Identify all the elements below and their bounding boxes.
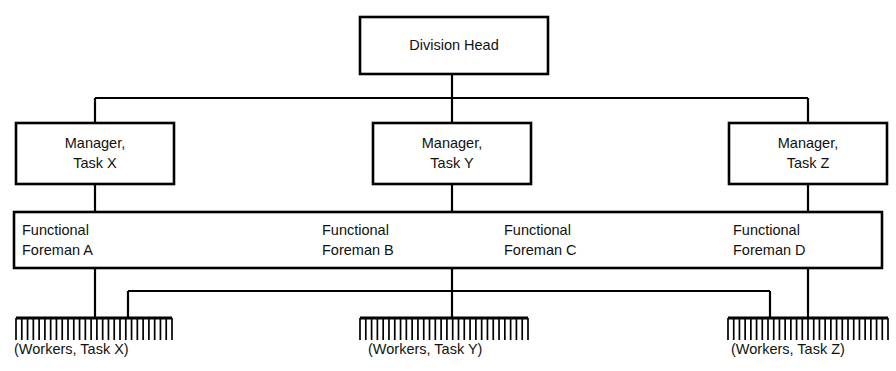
lower-connector-lines xyxy=(95,268,808,318)
manager-task-z-box xyxy=(729,123,887,184)
workers-task-x-comb xyxy=(16,318,172,340)
workers-task-z-caption: (Workers, Task Z) xyxy=(731,341,845,357)
manager-task-y-box xyxy=(373,123,531,184)
functional-foreman-d-line1: Functional xyxy=(733,222,800,238)
manager-task-x-label-line1: Manager, xyxy=(65,135,125,151)
functional-foreman-b-line2: Foreman B xyxy=(322,242,394,258)
functional-foreman-c-line1: Functional xyxy=(504,222,571,238)
functional-foreman-c-line2: Foreman C xyxy=(504,242,577,258)
workers-task-y-caption: (Workers, Task Y) xyxy=(368,341,482,357)
manager-task-x-node[interactable]: Manager, Task X xyxy=(16,123,174,184)
manager-task-y-label-line1: Manager, xyxy=(422,135,482,151)
org-chart-diagram: Division Head Manager, Task X Manager, T… xyxy=(0,0,896,371)
worker-comb-groups xyxy=(16,318,888,340)
functional-foreman-b-line1: Functional xyxy=(322,222,389,238)
manager-task-y-label-line2: Task Y xyxy=(430,155,474,171)
division-head-node[interactable]: Division Head xyxy=(360,17,548,74)
foreman-band-box xyxy=(14,212,882,268)
org-chart-canvas: Division Head Manager, Task X Manager, T… xyxy=(0,0,896,371)
manager-task-z-node[interactable]: Manager, Task Z xyxy=(729,123,887,184)
manager-task-z-label-line2: Task Z xyxy=(787,155,830,171)
worker-captions: (Workers, Task X) (Workers, Task Y) (Wor… xyxy=(14,341,845,357)
workers-task-z-comb xyxy=(728,318,888,340)
workers-task-x-caption: (Workers, Task X) xyxy=(14,341,129,357)
manager-task-y-node[interactable]: Manager, Task Y xyxy=(373,123,531,184)
manager-task-x-label-line2: Task X xyxy=(73,155,117,171)
manager-task-x-box xyxy=(16,123,174,184)
manager-task-z-label-line1: Manager, xyxy=(778,135,838,151)
functional-foreman-a-line1: Functional xyxy=(22,222,89,238)
functional-foreman-d-line2: Foreman D xyxy=(733,242,806,258)
functional-foreman-a-line2: Foreman A xyxy=(22,242,93,258)
division-head-label: Division Head xyxy=(409,37,498,53)
workers-task-y-comb xyxy=(360,318,528,340)
functional-foreman-band[interactable]: Functional Foreman A Functional Foreman … xyxy=(14,212,882,268)
manager-nodes: Manager, Task X Manager, Task Y Manager,… xyxy=(16,123,887,184)
